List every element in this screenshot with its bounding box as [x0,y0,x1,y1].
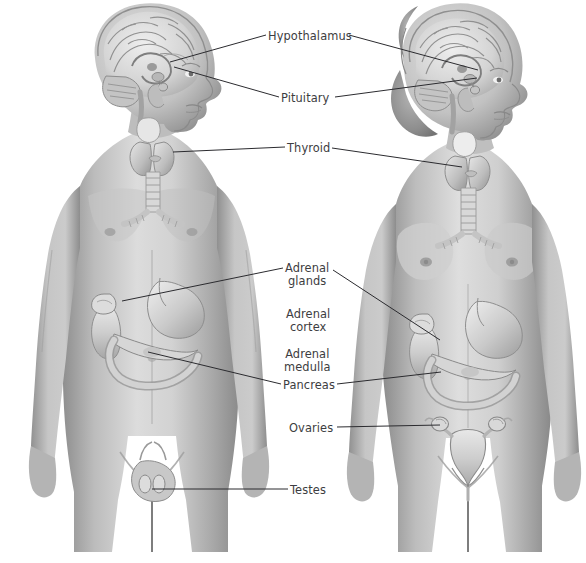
label-adrenal-cortex: Adrenalcortex [286,308,330,333]
label-ovaries-line-0: Ovaries [289,422,333,435]
pituitary-structure [158,83,167,91]
adrenal-gland-structure-female [410,314,434,334]
label-testes-line-0: Testes [290,484,326,497]
label-hypothalamus: Hypothalamus [268,30,352,43]
testis-structure [139,475,151,493]
label-thyroid-line-0: Thyroid [287,142,330,155]
pituitary-structure-female [470,86,479,94]
label-adrenal-medulla-line-0: Adrenal [284,348,331,361]
label-testes: Testes [290,484,326,497]
label-adrenal-medulla: Adrenalmedulla [284,348,331,373]
label-adrenal-medulla-line-1: medulla [284,361,331,374]
adrenal-gland-structure [92,294,116,314]
label-adrenal-glands-line-0: Adrenal [285,262,329,275]
label-pancreas: Pancreas [283,379,335,392]
label-pancreas-line-0: Pancreas [283,379,335,392]
male-testes [132,442,176,502]
label-pituitary-line-0: Pituitary [281,92,329,105]
label-pituitary: Pituitary [281,92,329,105]
hypothalamus-structure [152,73,164,82]
female-head [391,3,527,140]
label-adrenal-cortex-line-0: Adrenal [286,308,330,321]
male-head [95,3,222,132]
endocrine-system-diagram: HypothalamusPituitaryThyroidAdrenalgland… [0,0,586,563]
label-adrenal-glands-line-1: glands [285,275,329,288]
male-figure [29,3,269,552]
label-adrenal-cortex-line-1: cortex [286,321,330,334]
label-hypothalamus-line-0: Hypothalamus [268,30,352,43]
label-thyroid: Thyroid [287,142,330,155]
female-figure [347,3,581,552]
label-ovaries: Ovaries [289,422,333,435]
label-adrenal-glands: Adrenalglands [285,262,329,287]
uterus-structure [450,430,485,489]
